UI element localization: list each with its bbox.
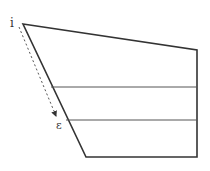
label-i: i [10, 16, 14, 30]
quadrilateral-outline [23, 24, 197, 157]
dashed-arrow [19, 27, 56, 116]
label-epsilon: ε [56, 119, 62, 132]
diagram-canvas: i ε [0, 0, 210, 171]
